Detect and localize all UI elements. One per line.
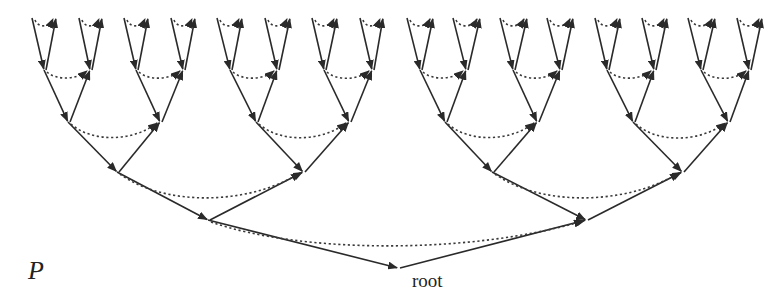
tree-edge-arrow — [258, 71, 277, 122]
tree-edge-arrow — [44, 70, 68, 121]
tree-edge-arrow — [642, 18, 654, 69]
tree-edge-arrow — [46, 19, 56, 70]
tree-edge-arrow — [117, 172, 207, 220]
tree-edge-arrow — [656, 19, 667, 70]
tree-edge-arrow — [326, 19, 337, 70]
dotted-traversal-curve — [423, 71, 463, 78]
tree-edge-arrow — [136, 70, 160, 121]
dotted-traversal-curve — [598, 19, 617, 26]
tree-edge-arrow — [162, 71, 183, 122]
tree-edge-arrow — [374, 19, 383, 70]
dotted-traversal-curve — [610, 71, 651, 78]
dotted-traversal-curve — [410, 19, 430, 26]
tree-edge-arrow — [312, 18, 324, 69]
tree-edge-arrow — [70, 71, 90, 122]
dotted-traversal-curve — [740, 19, 759, 26]
tree-edge-arrow — [265, 18, 277, 69]
dotted-traversal-curve — [211, 221, 583, 246]
tree-edge-arrow — [210, 172, 302, 220]
dotted-traversal-curve — [363, 19, 380, 26]
dotted-traversal-curve — [35, 19, 53, 26]
tree-edge-arrow — [79, 18, 90, 69]
tree-edge-arrow — [595, 18, 607, 69]
tree-edge-arrow — [703, 19, 715, 70]
tree-edge-arrow — [92, 19, 102, 70]
tree-edge-arrow — [232, 19, 242, 70]
dotted-traversal-curve — [691, 19, 712, 26]
tree-edge-arrow — [513, 70, 537, 121]
dotted-traversal-curve — [268, 19, 287, 26]
dotted-traversal-curve — [645, 19, 664, 26]
tree-edge-arrow — [400, 220, 585, 268]
tree-edge-arrow — [445, 122, 491, 171]
tree-edge-arrow — [305, 123, 348, 172]
tree-edge-arrow — [684, 123, 727, 172]
set-label-p: P — [28, 256, 44, 286]
tree-edge-arrow — [185, 19, 195, 70]
tree-edge-arrow — [492, 172, 585, 220]
solid-edges — [32, 18, 762, 268]
tree-edge-arrow — [124, 18, 136, 69]
tree-edge-arrow — [68, 122, 116, 171]
tree-edge-arrow — [468, 19, 480, 70]
dotted-traversal-curve — [82, 19, 99, 26]
dotted-traversal-curve — [259, 123, 346, 138]
binary-tree-diagram — [0, 0, 784, 306]
tree-edge-arrow — [447, 71, 466, 122]
tree-edge-arrow — [422, 19, 433, 70]
dotted-traversal-curve — [495, 173, 679, 198]
tree-edge-arrow — [32, 18, 44, 69]
dotted-traversal-curve — [71, 123, 157, 138]
tree-edge-arrow — [171, 18, 183, 69]
dotted-traversal-curve — [327, 71, 369, 78]
tree-edge-arrow — [256, 122, 302, 171]
dotted-traversal-curve — [220, 19, 239, 26]
dotted-traversal-curve — [174, 19, 192, 26]
dotted-traversal-curve — [315, 19, 334, 26]
tree-edge-arrow — [208, 220, 397, 268]
dotted-traversal-curve — [503, 19, 524, 26]
dotted-traversal-curve — [127, 19, 145, 26]
dotted-traversal-curve — [120, 173, 300, 198]
dotted-traversal-curve — [704, 71, 746, 78]
tree-edge-arrow — [119, 123, 159, 172]
dotted-traversal-curve — [550, 19, 570, 26]
tree-edge-arrow — [635, 71, 654, 122]
tree-edge-arrow — [562, 19, 573, 70]
tree-edge-arrow — [351, 71, 372, 122]
tree-edge-arrow — [279, 19, 290, 70]
tree-edge-arrow — [730, 71, 749, 122]
tree-edge-arrow — [138, 19, 148, 70]
tree-edge-arrow — [515, 19, 527, 70]
dotted-traversal-curve — [636, 123, 725, 138]
dotted-traversal-curve — [47, 71, 87, 78]
dotted-traversal-curve — [233, 71, 274, 78]
tree-edge-arrow — [539, 71, 560, 122]
tree-edge-arrow — [751, 19, 762, 70]
tree-edge-arrow — [633, 122, 681, 171]
dotted-traversal-curve — [516, 71, 557, 78]
dotted-traversal-curve — [139, 71, 180, 78]
tree-edge-arrow — [609, 19, 620, 70]
tree-edge-arrow — [737, 18, 749, 69]
tree-edge-arrow — [494, 123, 536, 172]
dotted-traversal-curve — [456, 19, 477, 26]
root-label: root — [412, 270, 443, 292]
dotted-traversal-curve — [448, 123, 534, 138]
